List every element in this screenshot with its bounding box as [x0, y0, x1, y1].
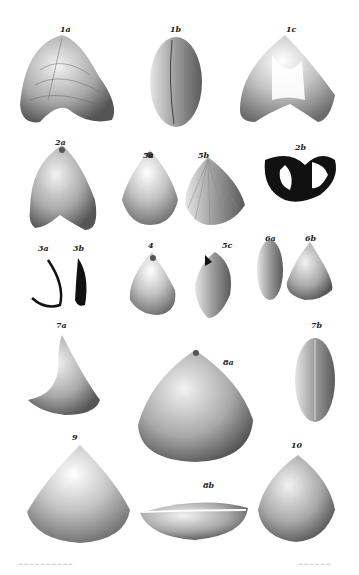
figure-8b: [140, 503, 248, 540]
figure-label: 7b: [311, 320, 322, 330]
figure-7b: [295, 338, 335, 422]
figure-2b: [265, 156, 336, 202]
figure-1c: [240, 35, 335, 122]
figure-label: 5b: [198, 150, 209, 160]
figure-9: [27, 445, 130, 543]
figure-label: 10: [291, 440, 302, 450]
figure-3b: [75, 258, 86, 306]
shell-plate: [0, 0, 359, 575]
figure-5c: [195, 252, 231, 318]
figure-10: [258, 455, 335, 542]
figure-6a: [257, 240, 283, 300]
figure-label: 6a: [265, 233, 276, 243]
figure-1b: [150, 37, 202, 127]
figure-label: 1a: [60, 24, 71, 34]
figure-label: 2b: [295, 142, 306, 152]
figure-5b: [185, 157, 245, 225]
figure-4: [130, 252, 176, 315]
figure-5a: [122, 150, 178, 225]
figure-7a: [28, 335, 100, 415]
figure-6b: [287, 242, 333, 300]
figure-label: 1b: [170, 24, 181, 34]
figure-label: 3a: [38, 243, 49, 253]
figure-label: 9: [72, 432, 78, 442]
figure-1a: [20, 35, 114, 122]
figure-label: 1c: [286, 24, 296, 34]
figure-3a: [32, 260, 61, 306]
figure-2a: [30, 145, 97, 230]
figure-label: 2a: [55, 137, 66, 147]
engraver-credit: ~~~~~~~~~~: [18, 560, 73, 567]
figure-label: 8a: [223, 357, 234, 367]
figure-label: 8b: [203, 480, 214, 490]
figure-label: 7a: [56, 320, 67, 330]
figure-label: 4: [148, 240, 154, 250]
figure-8a: [138, 350, 253, 462]
figure-label: 5c: [222, 240, 232, 250]
printer-credit: ~~~~~~: [298, 560, 331, 567]
figure-label: 6b: [305, 233, 316, 243]
figure-label: 3b: [73, 243, 84, 253]
figure-label: 5a: [143, 150, 154, 160]
